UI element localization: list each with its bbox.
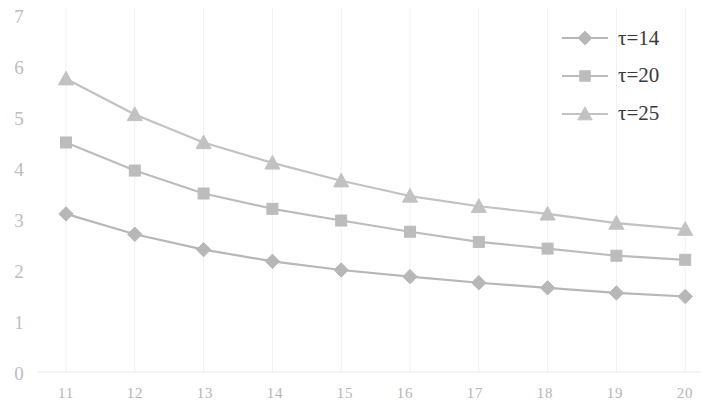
- data-point-marker: [128, 227, 142, 241]
- data-point-marker: [678, 289, 692, 303]
- data-point-marker: [61, 137, 72, 148]
- data-point-marker: [680, 254, 691, 265]
- gridlines: [66, 8, 685, 372]
- data-point-marker: [129, 165, 140, 176]
- data-point-marker: [59, 207, 73, 221]
- data-point-marker: [472, 276, 486, 290]
- data-point-marker: [196, 242, 210, 256]
- data-point-marker: [542, 243, 553, 254]
- data-point-marker: [127, 107, 142, 121]
- series-square: [61, 137, 691, 265]
- data-point-marker: [405, 226, 416, 237]
- legend-marker-diamond: [578, 31, 592, 45]
- data-point-marker: [59, 71, 74, 85]
- data-point-marker: [198, 188, 209, 199]
- legend-swatch-group: [562, 31, 608, 120]
- data-point-marker: [196, 135, 211, 149]
- data-series-group: [59, 71, 693, 303]
- series-line-square: [66, 143, 685, 260]
- data-point-marker: [403, 269, 417, 283]
- data-point-marker: [473, 236, 484, 247]
- legend-marker-square: [580, 71, 590, 81]
- data-point-marker: [334, 263, 348, 277]
- data-point-marker: [336, 215, 347, 226]
- data-point-marker: [609, 286, 623, 300]
- chart-container: 7 6 5 4 3 2 1 0 11 12 13 14 15 16 17 18 …: [0, 0, 702, 408]
- plot-area: [0, 0, 702, 408]
- data-point-marker: [540, 281, 554, 295]
- series-line-triangle: [66, 79, 685, 229]
- data-point-marker: [265, 254, 279, 268]
- data-point-marker: [267, 203, 278, 214]
- data-point-marker: [611, 250, 622, 261]
- series-triangle: [59, 71, 693, 235]
